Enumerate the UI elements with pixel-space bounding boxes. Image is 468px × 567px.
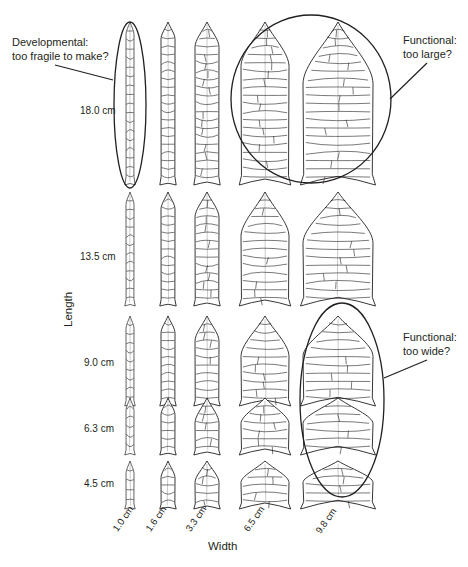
point-9-x-1 [125,316,135,406]
point-6-3-x-1-6 [160,398,176,455]
point-4-5-x-1 [125,461,135,509]
annotation-too-wide: Functional: too wide? [403,330,457,358]
point-18-x-1 [125,22,135,185]
annotation-too-large: Functional: too large? [403,33,457,61]
point-18-x-1-6 [160,22,176,185]
length-label-6-3: 6.3 cm [84,422,114,435]
y-axis-label: Length [62,292,75,327]
point-13-5-x-9-8 [300,192,375,306]
point-6-3-x-1 [125,398,135,455]
leader-line-too-wide [384,360,427,378]
annotation-developmental: Developmental: too fragile to make? [12,35,109,63]
length-label-4-5: 4.5 cm [84,477,114,490]
point-9-x-6-5 [239,316,290,406]
point-6-3-x-9-8 [300,398,375,455]
point-6-3-x-3-3 [194,398,220,455]
point-13-5-x-6-5 [239,192,290,306]
point-18-x-3-3 [194,22,220,185]
point-9-x-3-3 [194,316,220,406]
length-label-13-5: 13.5 cm [80,250,116,263]
point-13-5-x-1-6 [160,192,176,306]
point-9-x-1-6 [160,316,176,406]
point-4-5-x-6-5 [239,461,290,509]
point-4-5-x-1-6 [160,461,176,509]
point-4-5-x-3-3 [194,461,220,509]
length-label-9: 9.0 cm [84,356,114,369]
point-18-x-6-5 [239,22,290,185]
point-9-x-9-8 [300,316,375,406]
leader-line-developmental [55,65,113,80]
x-axis-label: Width [208,540,237,553]
length-label-18: 18.0 cm [80,104,116,117]
leader-line-too-large [390,63,427,99]
point-13-5-x-3-3 [194,192,220,306]
point-18-x-9-8 [300,22,375,185]
point-6-3-x-6-5 [239,398,290,455]
point-13-5-x-1 [125,192,135,306]
projectile-point-grid [0,0,468,567]
